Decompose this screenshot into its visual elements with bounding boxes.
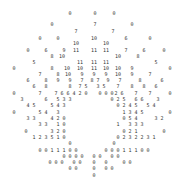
map-value: 3 xyxy=(44,135,47,140)
map-value: 5 xyxy=(38,110,41,115)
map-value: 1 xyxy=(56,148,59,153)
map-value: 3 xyxy=(38,122,41,127)
map-value: 6 xyxy=(154,84,157,89)
map-value: 5 xyxy=(102,84,105,89)
map-value: 2 xyxy=(38,135,41,140)
map-value: 0 xyxy=(68,141,71,146)
map-value: 11 xyxy=(103,48,109,53)
map-value: 4 xyxy=(44,110,47,115)
map-value: 2 xyxy=(122,103,125,108)
map-value: 1 xyxy=(32,135,35,140)
map-value: 3 xyxy=(128,135,131,140)
map-value: 0 xyxy=(84,91,87,96)
map-value: 5 xyxy=(32,60,35,65)
map-value: 6 xyxy=(124,36,127,41)
map-value: 7 xyxy=(38,72,41,77)
map-value: 8 xyxy=(90,78,93,83)
map-value: 0 xyxy=(78,160,81,165)
map-value: 2 xyxy=(160,116,163,121)
map-value: 7 xyxy=(38,91,41,96)
map-value: 0 xyxy=(24,129,27,134)
map-value: 0 xyxy=(168,110,171,115)
map-value: 2 xyxy=(122,135,125,140)
map-value: 10 xyxy=(59,54,65,59)
map-value: 9 xyxy=(106,78,109,83)
map-value: 0 xyxy=(116,135,119,140)
map-value: 0 xyxy=(12,66,15,71)
map-value: 0 xyxy=(62,135,65,140)
map-value: 0 xyxy=(38,148,41,153)
map-value: 0 xyxy=(104,166,107,171)
map-value: 3 xyxy=(134,122,137,127)
map-value: 1 xyxy=(134,148,137,153)
map-value: 3 xyxy=(26,116,29,121)
map-value: 0 xyxy=(74,166,77,171)
map-value: 0 xyxy=(44,148,47,153)
map-value: 10 xyxy=(103,41,109,46)
map-value: 11 xyxy=(91,48,97,53)
map-value: 8 xyxy=(44,84,47,89)
map-value: 0 xyxy=(92,173,95,178)
map-value: 4 xyxy=(128,103,131,108)
map-value: 10 xyxy=(73,41,79,46)
map-value: 3 xyxy=(96,84,99,89)
map-value: 0 xyxy=(168,91,171,96)
map-value: 3 xyxy=(140,122,143,127)
map-value: 4 xyxy=(152,103,155,108)
map-value: 0 xyxy=(60,160,63,165)
map-value: 3 xyxy=(44,122,47,127)
map-value: 5 xyxy=(140,110,143,115)
map-value: 0 xyxy=(162,48,165,53)
map-value: 7 xyxy=(93,22,96,27)
map-value: 10 xyxy=(91,36,97,41)
map-value: 1 xyxy=(128,148,131,153)
map-value: 0 xyxy=(104,91,107,96)
map-value: 1 xyxy=(56,135,59,140)
map-value: 0 xyxy=(110,166,113,171)
map-value: 0 xyxy=(140,148,143,153)
map-value: 4 xyxy=(50,116,53,121)
map-value: 0 xyxy=(50,22,53,27)
map-value: 0 xyxy=(92,166,95,171)
map-value: 7 xyxy=(111,29,114,34)
map-value: 0 xyxy=(93,11,96,16)
map-value: 0 xyxy=(146,148,149,153)
map-value: 7 xyxy=(74,29,77,34)
map-value: 4 xyxy=(56,103,59,108)
map-value: 3 xyxy=(154,116,157,121)
map-value: 1 xyxy=(56,122,59,127)
map-value: 0 xyxy=(112,141,115,146)
map-value: 0 xyxy=(116,154,119,159)
map-value: 6 xyxy=(140,97,143,102)
map-value: 7 xyxy=(78,84,81,89)
map-value: 6 xyxy=(44,48,47,53)
map-value: 8 xyxy=(142,84,145,89)
map-value: 5 xyxy=(134,103,137,108)
map-value: 6 xyxy=(44,97,47,102)
map-value: 6 xyxy=(26,78,29,83)
map-value: 0 xyxy=(12,110,15,115)
map-value: 8 xyxy=(130,84,133,89)
map-value: 0 xyxy=(98,154,101,159)
map-value: 6 xyxy=(142,48,145,53)
map-value: 0 xyxy=(62,122,65,127)
map-value: 5 xyxy=(50,135,53,140)
map-value: 8 xyxy=(50,54,53,59)
map-value: 6 xyxy=(32,84,35,89)
map-value: 9 xyxy=(130,72,133,77)
map-value: 3 xyxy=(62,103,65,108)
map-value: 1 xyxy=(116,122,119,127)
map-value: 0 xyxy=(162,129,165,134)
map-value: 10 xyxy=(115,54,121,59)
map-value: 0 xyxy=(68,166,71,171)
map-value: 7 xyxy=(116,84,119,89)
map-value: 0 xyxy=(128,160,131,165)
map-value: 3 xyxy=(32,116,35,121)
map-value: 7 xyxy=(148,91,151,96)
map-value: 0 xyxy=(56,36,59,41)
map-value: 0 xyxy=(148,36,151,41)
map-value: 3 xyxy=(156,97,159,102)
map-value: 9 xyxy=(56,78,59,83)
map-value: 7 xyxy=(124,48,127,53)
map-value: 0 xyxy=(68,154,71,159)
